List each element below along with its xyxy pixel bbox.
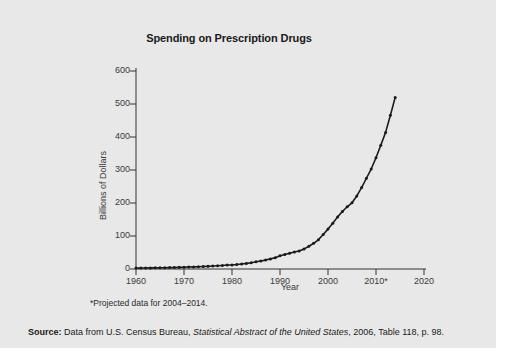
data-point (384, 131, 387, 134)
data-point (279, 254, 282, 257)
x-tick-label: 2000 (308, 276, 348, 286)
x-tick-label: 1980 (212, 276, 252, 286)
y-tick-label: 200 (104, 197, 130, 207)
data-point (135, 267, 138, 270)
y-tick-label: 100 (104, 230, 130, 240)
figure-area: Spending on Prescription Drugs (14, 10, 482, 310)
data-point (192, 265, 195, 268)
figure-card: Spending on Prescription Drugs (0, 0, 496, 348)
y-tick-label: 300 (104, 164, 130, 174)
data-point (269, 257, 272, 260)
source-text-before: Data from U.S. Census Bureau, (62, 327, 194, 337)
data-point (317, 238, 320, 241)
data-point (394, 96, 397, 99)
data-point (331, 222, 334, 225)
data-point (245, 262, 248, 265)
y-axis-label-wrap: Billions of Dollars (86, 120, 100, 220)
data-point (351, 201, 354, 204)
data-point (379, 144, 382, 147)
page-right-margin (496, 0, 522, 360)
data-point (221, 264, 224, 267)
source-italic-title: Statistical Abstract of the United State… (193, 327, 348, 337)
x-axis-ticks (136, 269, 424, 275)
data-point (355, 194, 358, 197)
data-point (288, 252, 291, 255)
data-point (144, 266, 147, 269)
data-point (154, 266, 157, 269)
data-point (307, 245, 310, 248)
data-point (173, 266, 176, 269)
chart-axes (136, 68, 426, 269)
data-point (259, 259, 262, 262)
source-prefix: Source: (28, 327, 62, 337)
source-citation: Source: Data from U.S. Census Bureau, St… (28, 327, 444, 337)
data-point (178, 266, 181, 269)
data-point (303, 247, 306, 250)
y-axis-label: Billions of Dollars (98, 151, 108, 220)
data-point (327, 228, 330, 231)
data-point (312, 242, 315, 245)
line-chart-plot (14, 10, 482, 310)
data-point (250, 261, 253, 264)
data-point (389, 114, 392, 117)
y-tick-label: 500 (104, 98, 130, 108)
data-point (360, 186, 363, 189)
data-point (216, 264, 219, 267)
y-tick-label: 0 (104, 263, 130, 273)
y-axis-ticks (130, 71, 136, 269)
data-point (283, 253, 286, 256)
data-point (274, 256, 277, 259)
data-point (187, 266, 190, 269)
x-tick-label: 1970 (164, 276, 204, 286)
data-point (240, 263, 243, 266)
page-bottom-margin (0, 348, 522, 360)
data-series-line (136, 97, 395, 268)
data-point (139, 267, 142, 270)
data-point (183, 266, 186, 269)
data-point (255, 260, 258, 263)
data-point (293, 251, 296, 254)
data-point (202, 265, 205, 268)
data-point (346, 205, 349, 208)
data-point (298, 249, 301, 252)
data-point (149, 266, 152, 269)
data-point (163, 266, 166, 269)
data-point (235, 263, 238, 266)
x-tick-label: 1990 (260, 276, 300, 286)
data-point (211, 265, 214, 268)
figure-page: Spending on Prescription Drugs (0, 0, 522, 360)
data-point (168, 266, 171, 269)
data-point (207, 265, 210, 268)
data-point-markers (135, 96, 397, 270)
source-text-after: , 2006, Table 118, p. 98. (348, 327, 444, 337)
x-tick-label: 1960 (116, 276, 156, 286)
data-point (197, 265, 200, 268)
data-point (341, 210, 344, 213)
y-tick-label: 400 (104, 131, 130, 141)
data-point (370, 168, 373, 171)
data-point (231, 264, 234, 267)
x-tick-label: 2020 (404, 276, 444, 286)
data-point (159, 266, 162, 269)
x-tick-label: 2010* (356, 276, 396, 286)
data-point (264, 259, 267, 262)
data-point (226, 264, 229, 267)
data-point (322, 233, 325, 236)
chart-footnote: *Projected data for 2004–2014. (90, 298, 208, 308)
data-point (365, 177, 368, 180)
data-point (336, 215, 339, 218)
data-point (375, 156, 378, 159)
y-tick-label: 600 (104, 65, 130, 75)
